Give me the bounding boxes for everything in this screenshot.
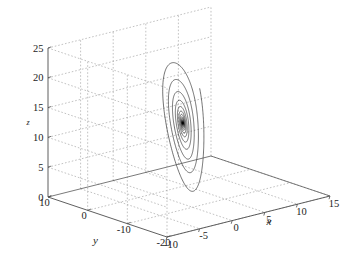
x-tick-label: -10	[164, 239, 178, 250]
y-tick-mark	[88, 209, 91, 210]
y-tick-label: 10	[39, 197, 50, 208]
left-wall-grid-line-z	[48, 48, 167, 88]
z-tick-mark	[48, 107, 51, 108]
back-wall-grid-line-z	[48, 126, 211, 167]
x-tick-label: 15	[329, 198, 340, 209]
floor-grid-line-x	[113, 181, 232, 221]
z-tick-mark	[48, 136, 51, 137]
attractor-curve-layer	[163, 63, 204, 192]
y-axis-title: y	[92, 234, 98, 246]
left-wall-grid-line-z	[48, 78, 167, 118]
floor-grid-line-x	[178, 164, 297, 204]
grid-layer	[48, 7, 330, 237]
z-tick-label: 5	[38, 162, 43, 173]
floor-right-edge	[211, 156, 330, 196]
x-axis-title: x	[265, 215, 271, 227]
floor-grid-line-x	[81, 189, 200, 229]
z-tick-label: 10	[33, 132, 44, 143]
axis-lines-layer	[48, 48, 330, 237]
y-axis-line	[48, 197, 167, 237]
floor-grid-line-x	[146, 172, 265, 212]
z-tick-mark	[48, 166, 51, 167]
z-tick-mark	[48, 77, 51, 78]
attractor-trajectory	[163, 63, 204, 192]
y-tick-label: 0	[82, 210, 87, 221]
z-tick-label: 20	[33, 72, 44, 83]
plot-canvas: 0510152025-20-10010-10-5051015 zyx	[0, 0, 354, 269]
left-wall-grid-line-z	[48, 167, 167, 207]
z-axis-title: z	[25, 118, 30, 127]
back-wall-grid-line-z	[48, 67, 211, 108]
figure-3d-attractor-plot: 0510152025-20-10010-10-5051015 zyx	[0, 0, 354, 269]
y-tick-label: -10	[117, 224, 131, 235]
floor-back-edge	[48, 156, 211, 197]
left-wall-grid-line-z	[48, 108, 167, 148]
z-tick-label: 25	[33, 43, 44, 54]
x-tick-label: -5	[199, 230, 208, 241]
x-tick-label: 10	[296, 206, 307, 217]
x-tick-label: 0	[234, 222, 239, 233]
floor-grid-line-y	[88, 169, 251, 210]
back-wall-grid-line-z	[48, 7, 211, 48]
z-tick-label: 15	[33, 102, 44, 113]
z-tick-mark	[48, 47, 51, 48]
back-wall-grid-line-z	[48, 37, 211, 78]
